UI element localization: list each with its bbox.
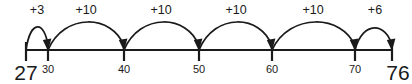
jump-label-40-to-50: +10	[150, 3, 171, 17]
tick-label-60: 60	[266, 63, 278, 75]
jump-arc-40-to-50	[124, 22, 199, 50]
tick-label-30: 30	[42, 63, 54, 75]
jump-label-30-to-40: +10	[75, 3, 96, 17]
ticks-layer	[26, 42, 392, 61]
tick-label-27: 27	[14, 61, 37, 84]
number-line-canvas: 27304050607076 +3+10+10+10+10+6	[0, 0, 412, 84]
jump-label-60-to-70: +10	[302, 3, 323, 17]
tick-label-40: 40	[118, 63, 130, 75]
tick-labels-layer: 27304050607076	[14, 61, 409, 84]
tick-label-70: 70	[349, 63, 361, 75]
tick-label-76: 76	[386, 61, 409, 84]
number-line-figure: 27304050607076 +3+10+10+10+10+6	[0, 0, 412, 84]
jump-arc-30-to-40	[48, 22, 124, 50]
jump-arc-50-to-60	[199, 22, 272, 50]
jump-labels-layer: +3+10+10+10+10+6	[30, 3, 382, 17]
jump-label-27-to-30: +3	[30, 3, 44, 17]
jump-arc-60-to-70	[272, 22, 355, 50]
jump-arcs-layer	[26, 22, 395, 51]
jump-label-70-to-76: +6	[368, 3, 382, 17]
tick-label-50: 50	[193, 63, 205, 75]
jump-arc-27-to-30	[26, 27, 48, 50]
jump-arc-70-to-76	[355, 28, 392, 50]
jump-label-50-to-60: +10	[225, 3, 246, 17]
